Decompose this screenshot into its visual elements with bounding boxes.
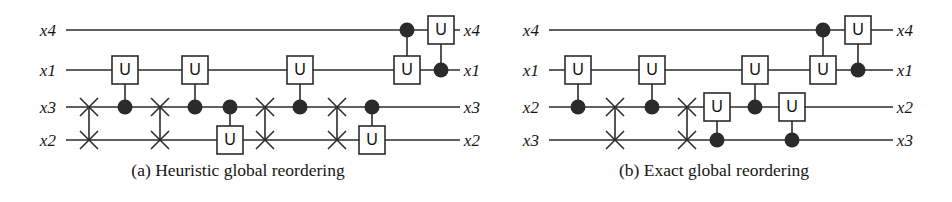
controlled-u-gate: U [565, 56, 591, 115]
swap-gate [678, 98, 696, 149]
caption-a: (a) Heuristic global reordering [0, 160, 476, 181]
u-gate-label: U [189, 61, 201, 78]
u-gate-label: U [786, 98, 798, 115]
u-gate-label: U [119, 61, 131, 78]
controlled-u-gate: U [428, 16, 454, 78]
figure-two-quantum-circuits: UUUUUUU (a) Heuristic global reordering … [0, 0, 952, 202]
input-wire-label-x1: x1 [523, 62, 539, 79]
u-gate-label: U [817, 61, 829, 78]
u-gate-label: U [711, 98, 723, 115]
swap-gate [80, 98, 98, 149]
u-gate-label: U [852, 21, 864, 38]
u-gate-label: U [401, 61, 413, 78]
panel-exact-global-reordering: UUUUUUU (b) Exact global reordering x4x1… [476, 0, 952, 202]
swap-gate [328, 98, 346, 149]
u-gate-label: U [646, 61, 658, 78]
input-wire-label-x3: x3 [40, 99, 56, 116]
controlled-u-gate: U [845, 16, 871, 78]
control-dot [400, 23, 415, 38]
controlled-u-gate: U [182, 56, 208, 115]
controlled-u-gate: U [639, 56, 665, 115]
control-dot [785, 133, 800, 148]
controlled-u-gate: U [742, 56, 768, 115]
output-wire-label-x2: x2 [897, 99, 913, 116]
controlled-u-gate: U [287, 56, 313, 115]
controlled-u-gate: U [810, 23, 836, 85]
caption-b: (b) Exact global reordering [476, 160, 952, 181]
input-wire-label-x4: x4 [523, 22, 539, 39]
control-dot [365, 100, 380, 115]
control-dot [748, 100, 763, 115]
swap-gate [256, 98, 274, 149]
controlled-u-gate: U [394, 23, 420, 85]
output-wire-label-x3: x3 [897, 132, 913, 149]
control-dot [188, 100, 203, 115]
u-gate-label: U [435, 21, 447, 38]
u-gate-label: U [749, 61, 761, 78]
circuit-diagram-b: UUUUUUU [476, 0, 952, 160]
circuit-diagram-a: UUUUUUU [0, 0, 476, 160]
control-dot [816, 23, 831, 38]
control-dot [851, 63, 866, 78]
input-wire-label-x1: x1 [40, 62, 56, 79]
control-dot [118, 100, 133, 115]
control-dot [434, 63, 449, 78]
input-wire-label-x4: x4 [40, 22, 56, 39]
panel-heuristic-global-reordering: UUUUUUU (a) Heuristic global reordering … [0, 0, 476, 202]
output-wire-label-x1: x1 [897, 62, 913, 79]
controlled-u-gate: U [112, 56, 138, 115]
u-gate-label: U [366, 131, 378, 148]
control-dot [710, 133, 725, 148]
swap-gate [606, 98, 624, 149]
control-dot [293, 100, 308, 115]
control-dot [571, 100, 586, 115]
control-dot [223, 100, 238, 115]
control-dot [645, 100, 660, 115]
input-wire-label-x3: x3 [523, 132, 539, 149]
output-wire-label-x4: x4 [897, 22, 913, 39]
u-gate-label: U [572, 61, 584, 78]
u-gate-label: U [224, 131, 236, 148]
input-wire-label-x2: x2 [523, 99, 539, 116]
swap-gate [151, 98, 169, 149]
u-gate-label: U [294, 61, 306, 78]
input-wire-label-x2: x2 [40, 132, 56, 149]
